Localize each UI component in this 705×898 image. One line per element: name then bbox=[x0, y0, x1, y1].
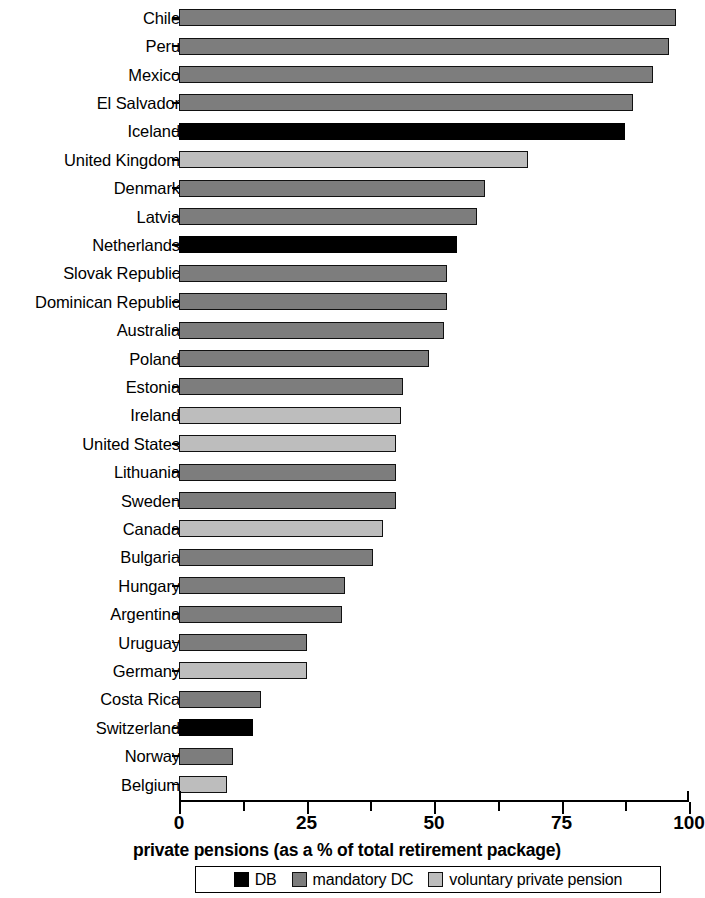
bar bbox=[179, 719, 253, 736]
y-axis-tick bbox=[172, 670, 179, 672]
bar bbox=[179, 435, 396, 452]
category-label: Lithuania bbox=[8, 463, 180, 481]
bar-row: Hungary bbox=[0, 572, 694, 601]
category-label: Argentina bbox=[8, 605, 180, 623]
category-label: Sweden bbox=[8, 492, 180, 510]
y-axis-tick bbox=[172, 557, 179, 559]
y-axis-tick bbox=[172, 642, 179, 644]
bar-row: Estonia bbox=[0, 373, 694, 402]
category-label: Mexico bbox=[8, 66, 180, 84]
y-axis-tick bbox=[172, 301, 179, 303]
bar bbox=[179, 123, 625, 140]
bar bbox=[179, 520, 383, 537]
bar-row: Bulgaria bbox=[0, 543, 694, 572]
legend-swatch-vpp-icon bbox=[428, 872, 443, 887]
bar bbox=[179, 464, 396, 481]
x-axis-minor-tick bbox=[498, 802, 500, 811]
plot-area: ChilePeruMexicoEl SalvadorIcelandUnited … bbox=[0, 0, 694, 800]
category-label: Norway bbox=[8, 747, 180, 765]
bar-row: United States bbox=[0, 430, 694, 459]
bar-row: Australia bbox=[0, 316, 694, 345]
legend-item-db[interactable]: DB bbox=[234, 871, 277, 889]
y-axis-tick bbox=[172, 727, 179, 729]
bar-row: Netherlands bbox=[0, 231, 694, 260]
category-label: Slovak Republic bbox=[8, 264, 180, 282]
bar-row: Switzerland bbox=[0, 714, 694, 743]
bar-row: Iceland bbox=[0, 117, 694, 146]
bar bbox=[179, 606, 342, 623]
category-label: Belgium bbox=[8, 776, 180, 794]
y-axis-tick bbox=[172, 415, 179, 417]
bar-row: Dominican Republic bbox=[0, 288, 694, 317]
category-label: Canada bbox=[8, 520, 180, 538]
bar-row: Denmark bbox=[0, 174, 694, 203]
bar bbox=[179, 776, 227, 793]
bar-row: Germany bbox=[0, 657, 694, 686]
legend-item-mdc[interactable]: mandatory DC bbox=[292, 871, 414, 889]
legend-label: mandatory DC bbox=[313, 871, 414, 889]
y-axis-tick bbox=[172, 585, 179, 587]
legend-item-vpp[interactable]: voluntary private pension bbox=[428, 871, 622, 889]
bar bbox=[179, 180, 485, 197]
x-axis-tick-label: 25 bbox=[296, 812, 317, 834]
category-label: Uruguay bbox=[8, 634, 180, 652]
bar bbox=[179, 293, 447, 310]
x-axis-minor-tick bbox=[625, 802, 627, 811]
category-label: Hungary bbox=[8, 577, 180, 595]
bar bbox=[179, 634, 307, 651]
category-label: Chile bbox=[8, 9, 180, 27]
bar-row: United Kingdom bbox=[0, 146, 694, 175]
bar-row: Argentina bbox=[0, 600, 694, 629]
bar-row: Uruguay bbox=[0, 628, 694, 657]
bar-row: Sweden bbox=[0, 486, 694, 515]
y-axis-tick bbox=[172, 500, 179, 502]
bar bbox=[179, 350, 429, 367]
x-axis-minor-tick bbox=[243, 802, 245, 811]
bar-row: El Salvador bbox=[0, 89, 694, 118]
bar bbox=[179, 322, 444, 339]
bar bbox=[179, 236, 457, 253]
bar-row: Belgium bbox=[0, 770, 694, 799]
y-axis-tick bbox=[172, 613, 179, 615]
y-axis-tick bbox=[172, 17, 179, 19]
bar-row: Peru bbox=[0, 32, 694, 61]
y-axis-tick bbox=[172, 131, 179, 133]
y-axis-tick bbox=[172, 329, 179, 331]
bar-row: Costa Rica bbox=[0, 685, 694, 714]
y-axis-tick bbox=[172, 443, 179, 445]
y-axis-tick bbox=[172, 102, 179, 104]
bar bbox=[179, 265, 447, 282]
bar bbox=[179, 577, 345, 594]
x-axis-tick-label: 100 bbox=[673, 812, 705, 834]
category-label: United States bbox=[8, 435, 180, 453]
y-axis-tick bbox=[172, 471, 179, 473]
x-axis-tick-label: 0 bbox=[174, 812, 185, 834]
category-label: Poland bbox=[8, 350, 180, 368]
bar-row: Norway bbox=[0, 742, 694, 771]
category-label: Peru bbox=[8, 37, 180, 55]
y-axis-tick bbox=[172, 358, 179, 360]
category-label: Switzerland bbox=[8, 719, 180, 737]
bar bbox=[179, 549, 373, 566]
y-axis-tick bbox=[172, 528, 179, 530]
bar-row: Mexico bbox=[0, 60, 694, 89]
y-axis-tick bbox=[172, 699, 179, 701]
bar bbox=[179, 662, 307, 679]
category-label: Netherlands bbox=[8, 236, 180, 254]
category-label: Ireland bbox=[8, 406, 180, 424]
bar bbox=[179, 208, 477, 225]
bar-row: Latvia bbox=[0, 202, 694, 231]
category-label: Costa Rica bbox=[8, 690, 180, 708]
bar bbox=[179, 38, 669, 55]
category-label: Dominican Republic bbox=[8, 293, 180, 311]
legend-label: voluntary private pension bbox=[449, 871, 622, 889]
chart-legend: DBmandatory DCvoluntary private pension bbox=[195, 866, 661, 893]
legend-swatch-mdc-icon bbox=[292, 872, 307, 887]
legend-label: DB bbox=[255, 871, 277, 889]
bar bbox=[179, 66, 653, 83]
y-axis-tick bbox=[172, 784, 179, 786]
y-axis-tick bbox=[172, 45, 179, 47]
bar bbox=[179, 691, 261, 708]
y-axis-tick bbox=[172, 386, 179, 388]
category-label: Australia bbox=[8, 321, 180, 339]
